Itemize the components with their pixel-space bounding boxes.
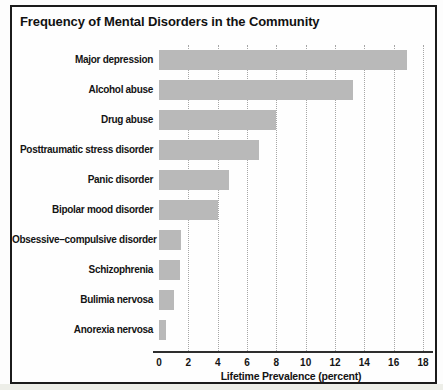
bar: [159, 110, 276, 130]
x-tick-label: 2: [186, 357, 192, 368]
bar: [159, 170, 229, 190]
figure-box: Frequency of Mental Disorders in the Com…: [10, 5, 437, 384]
bar: [159, 290, 174, 310]
category-label: Drug abuse: [12, 105, 153, 135]
category-label: Major depression: [12, 45, 153, 75]
bar: [159, 230, 181, 250]
x-axis-title: Lifetime Prevalence (percent): [159, 370, 423, 382]
bar: [159, 80, 353, 100]
x-tick-label: 6: [244, 357, 250, 368]
category-label: Alcohol abuse: [12, 75, 153, 105]
bar: [159, 200, 218, 220]
x-tick-label: 14: [359, 357, 370, 368]
x-tick-label: 18: [417, 357, 428, 368]
gridline: [364, 45, 365, 351]
gridline: [423, 45, 424, 351]
category-label: Panic disorder: [12, 165, 153, 195]
x-tick-label: 4: [215, 357, 221, 368]
category-label: Schizophrenia: [12, 255, 153, 285]
bar: [159, 260, 180, 280]
page: Frequency of Mental Disorders in the Com…: [0, 0, 443, 390]
plot-area: Major depressionAlcohol abuseDrug abuseP…: [12, 7, 435, 382]
x-tick-label: 8: [274, 357, 280, 368]
x-tick-label: 10: [300, 357, 311, 368]
page-margin-bottom: [0, 384, 443, 390]
bar: [159, 140, 259, 160]
category-label: Posttraumatic stress disorder: [12, 135, 153, 165]
gridline: [394, 45, 395, 351]
bar: [159, 50, 407, 70]
x-tick-label: 0: [156, 357, 162, 368]
x-tick-label: 12: [329, 357, 340, 368]
category-label: Bipolar mood disorder: [12, 195, 153, 225]
x-tick-label: 16: [388, 357, 399, 368]
category-label: Bulimia nervosa: [12, 285, 153, 315]
category-label: Anorexia nervosa: [12, 315, 153, 345]
x-axis-line: [153, 351, 433, 353]
category-label: Obsessive–compulsive disorder: [12, 225, 153, 255]
bar: [159, 320, 166, 340]
